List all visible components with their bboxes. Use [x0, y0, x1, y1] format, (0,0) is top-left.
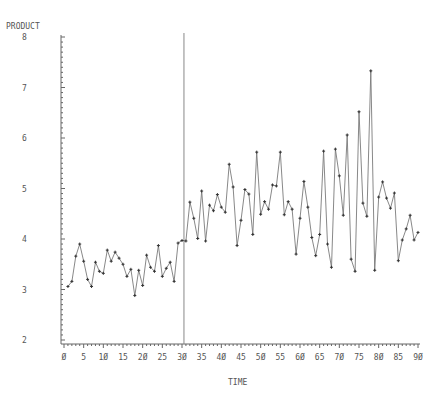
x-tick-label: 25 [158, 353, 168, 362]
x-tick-label: 85 [394, 353, 404, 362]
x-axis-title: TIME [228, 378, 247, 387]
y-axis: 2345678 [22, 33, 65, 345]
x-tick-label: Ø [62, 352, 67, 362]
x-tick-label: 2Ø [138, 352, 148, 362]
x-tick-label: 5Ø [256, 352, 266, 362]
product-series-line [68, 71, 418, 296]
x-tick-label: 35 [197, 353, 207, 362]
line-chart: 2345678 Ø51Ø152Ø253Ø354Ø455Ø556Ø657Ø758Ø… [0, 0, 443, 406]
x-tick-label: 65 [315, 353, 325, 362]
x-tick-label: 6Ø [295, 352, 305, 362]
y-tick-label: 8 [22, 33, 27, 42]
x-tick-label: 3Ø [177, 352, 187, 362]
data-point-markers [66, 69, 419, 297]
x-tick-label: 1Ø [99, 352, 109, 362]
y-tick-label: 7 [22, 84, 27, 93]
x-tick-label: 4Ø [217, 352, 227, 362]
y-tick-label: 4 [22, 235, 27, 244]
y-tick-label: 2 [22, 336, 27, 345]
x-tick-label: 75 [354, 353, 364, 362]
y-tick-label: 5 [22, 185, 27, 194]
x-tick-label: 45 [236, 353, 246, 362]
x-tick-label: 5 [81, 353, 86, 362]
x-tick-label: 8Ø [374, 352, 384, 362]
x-axis: Ø51Ø152Ø253Ø354Ø455Ø556Ø657Ø758Ø859Ø [61, 344, 423, 362]
x-tick-label: 9Ø [413, 352, 423, 362]
y-axis-title: PRODUCT [6, 22, 40, 31]
x-tick-label: 15 [118, 353, 128, 362]
x-tick-label: 55 [276, 353, 286, 362]
x-tick-label: 7Ø [335, 352, 345, 362]
y-tick-label: 3 [22, 286, 27, 295]
y-tick-label: 6 [22, 134, 27, 143]
